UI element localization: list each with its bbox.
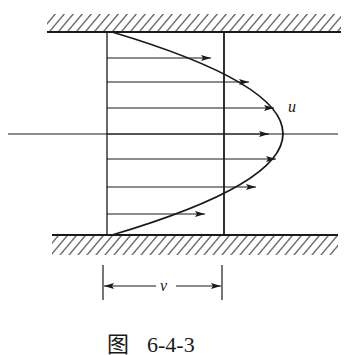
velocity-arrows: [107, 58, 276, 214]
caption-prefix: 图: [107, 326, 129, 355]
figure-caption: 图6-4-3: [107, 326, 195, 355]
flow-diagram: u v: [0, 0, 356, 355]
caption-number: 6-4-3: [147, 332, 195, 355]
top-wall: [47, 14, 341, 32]
bottom-wall: [52, 235, 338, 255]
velocity-label: u: [288, 98, 296, 115]
width-label: v: [160, 277, 168, 294]
